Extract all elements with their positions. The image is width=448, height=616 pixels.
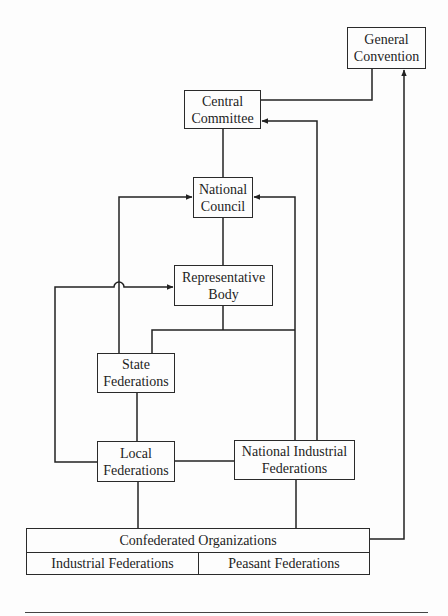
node-local-federations: Local Federations — [97, 441, 175, 482]
node-general-convention: General Convention — [347, 27, 426, 69]
node-label-line1: Local — [103, 445, 168, 462]
node-label-line2: Federations — [242, 460, 347, 477]
node-label-line2: Committee — [191, 110, 253, 127]
node-label-line2: Convention — [354, 48, 419, 65]
bottom-rule — [25, 612, 428, 613]
node-label-line2: Federations — [103, 373, 168, 390]
node-label-line1: National Industrial — [242, 443, 347, 460]
node-label-line1: State — [103, 356, 168, 373]
confederated-industrial-federations: Industrial Federations — [27, 553, 199, 574]
confederated-title: Confederated Organizations — [27, 529, 369, 553]
node-label-line2: Body — [182, 286, 265, 303]
node-label-line1: Central — [191, 93, 253, 110]
edge-co-to-gc — [370, 70, 404, 539]
node-label-line1: National — [199, 181, 247, 198]
node-national-industrial-federations: National Industrial Federations — [234, 440, 355, 480]
edge-cc-to-gc — [261, 69, 372, 100]
edge-nif-to-nc — [254, 197, 295, 440]
node-central-committee: Central Committee — [184, 90, 261, 129]
node-label-line1: General — [354, 31, 419, 48]
node-label-line2: Council — [199, 198, 247, 215]
edge-junction-h — [152, 330, 295, 353]
node-state-federations: State Federations — [97, 353, 175, 393]
node-representative-body: Representative Body — [174, 265, 273, 306]
confederated-peasant-federations: Peasant Federations — [199, 553, 369, 574]
node-confederated-organizations: Confederated Organizations Industrial Fe… — [26, 528, 370, 575]
node-label-line2: Federations — [103, 462, 168, 479]
node-national-council: National Council — [193, 177, 253, 218]
node-label-line1: Representative — [182, 269, 265, 286]
